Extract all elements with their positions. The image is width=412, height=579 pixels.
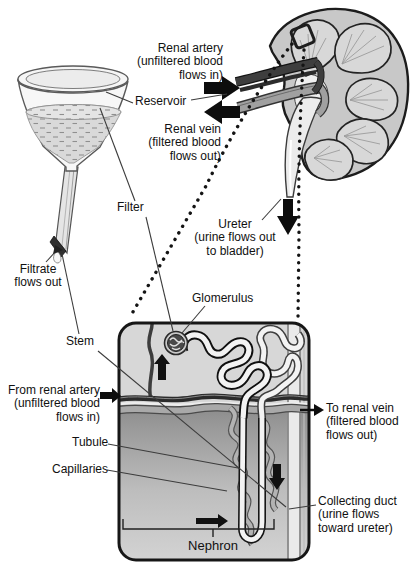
reservoir-leader-right (191, 94, 227, 100)
from-renal-artery-label: From renal artery (unfiltered blood flow… (8, 384, 100, 424)
renal-vein-label: Renal vein (filtered blood flows out) (148, 123, 221, 163)
glomerulus-illustration (165, 332, 188, 355)
kidney-illustration (204, 9, 408, 235)
capillaries-label: Capillaries (52, 463, 108, 476)
filtrate-label: Filtrate flows out (2, 263, 74, 290)
ureter-label: Ureter (urine flows out to bladder) (189, 218, 281, 258)
tubule-label: Tubule (72, 436, 108, 449)
stem-label: Stem (66, 335, 94, 348)
kidney-filter-analogy-figure: Renal artery (unfiltered blood flows in)… (0, 0, 412, 579)
glomerulus-label: Glomerulus (192, 292, 253, 305)
funnel-illustration (18, 66, 128, 263)
nephron-panel (119, 323, 309, 561)
to-renal-vein-label: To renal vein (filtered blood flows out) (326, 402, 399, 442)
reservoir-label: Reservoir (135, 95, 186, 108)
filter-leader-top (100, 108, 135, 201)
blood-vessel-band (119, 395, 309, 411)
nephron-label: Nephron (173, 539, 253, 554)
renal-vein-flow-arrow (204, 100, 240, 124)
filter-label: Filter (117, 201, 144, 214)
filter-leader-bottom (146, 217, 173, 331)
collecting-duct-label: Collecting duct (urine flows toward uret… (318, 495, 397, 535)
renal-artery-label: Renal artery (unfiltered blood flows in) (137, 42, 223, 82)
